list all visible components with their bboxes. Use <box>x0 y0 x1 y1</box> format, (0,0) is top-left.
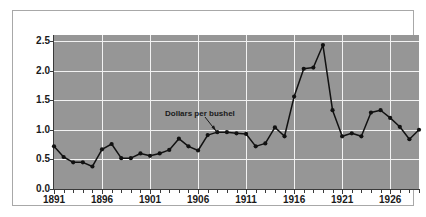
data-point-marker <box>311 65 315 69</box>
y-tick-label: 1.0 <box>20 125 50 135</box>
x-tick-label: 1901 <box>130 195 170 205</box>
data-point-marker <box>81 160 85 164</box>
data-point-marker <box>282 134 286 138</box>
y-tick-label: 2.0 <box>20 66 50 76</box>
data-point-marker <box>71 160 75 164</box>
data-point-marker <box>302 67 306 71</box>
x-axis-labels: 18911896190119061911191619211926 <box>54 191 419 207</box>
data-point-marker <box>129 156 133 160</box>
y-tick-label: 1.5 <box>20 95 50 105</box>
y-tick-label: 2.5 <box>20 36 50 46</box>
y-tick-mark <box>50 41 54 42</box>
x-tick-mark <box>419 189 420 193</box>
x-tick-label: 1921 <box>322 195 362 205</box>
y-axis-labels: 0.00.51.01.52.02.5 <box>17 35 50 189</box>
data-point-marker <box>330 108 334 112</box>
x-tick-label: 1891 <box>34 195 74 205</box>
y-tick-mark <box>50 71 54 72</box>
data-point-marker <box>110 142 114 146</box>
x-tick-label: 1926 <box>370 195 410 205</box>
data-point-marker <box>158 151 162 155</box>
data-point-marker <box>340 134 344 138</box>
data-point-marker <box>52 144 56 148</box>
data-point-marker <box>273 125 277 129</box>
data-point-marker <box>119 156 123 160</box>
y-tick-label: 0.5 <box>20 154 50 164</box>
data-point-marker <box>62 155 66 159</box>
data-point-marker <box>90 164 94 168</box>
chart-frame: 0.00.51.01.52.02.5 189118961901190619111… <box>12 10 414 206</box>
data-point-marker <box>138 151 142 155</box>
y-tick-mark <box>50 100 54 101</box>
data-point-marker <box>407 137 411 141</box>
y-tick-label: 0.0 <box>20 184 50 194</box>
chart-figure: 0.00.51.01.52.02.5 189118961901190619111… <box>0 0 426 217</box>
x-tick-label: 1896 <box>82 195 122 205</box>
data-point-marker <box>292 95 296 99</box>
data-point-marker <box>378 108 382 112</box>
data-point-marker <box>359 134 363 138</box>
data-point-marker <box>417 128 421 132</box>
y-tick-mark <box>50 130 54 131</box>
x-tick-label: 1916 <box>274 195 314 205</box>
x-tick-label: 1911 <box>226 195 266 205</box>
data-point-marker <box>148 154 152 158</box>
y-tick-mark <box>50 159 54 160</box>
data-point-marker <box>350 131 354 135</box>
data-point-marker <box>369 110 373 114</box>
x-tick-label: 1906 <box>178 195 218 205</box>
data-point-marker <box>398 125 402 129</box>
y-tick-mark <box>50 189 54 190</box>
annotation-label: Dollars per bushel <box>165 110 235 118</box>
data-point-marker <box>321 43 325 47</box>
data-point-marker <box>388 116 392 120</box>
data-point-marker <box>100 147 104 151</box>
